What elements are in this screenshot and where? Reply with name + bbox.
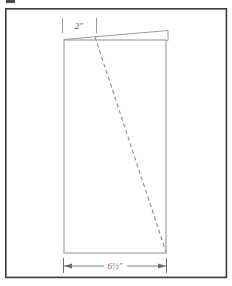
dimension-bottom-label: 6½" <box>107 261 122 271</box>
figure-root: 2" 6½" <box>0 0 232 286</box>
main-panel-rectangle <box>64 40 166 253</box>
dimension-top-label: 2" <box>75 21 84 31</box>
technical-drawing-canvas: 2" 6½" <box>0 0 232 286</box>
page-edge-mark <box>6 0 15 3</box>
